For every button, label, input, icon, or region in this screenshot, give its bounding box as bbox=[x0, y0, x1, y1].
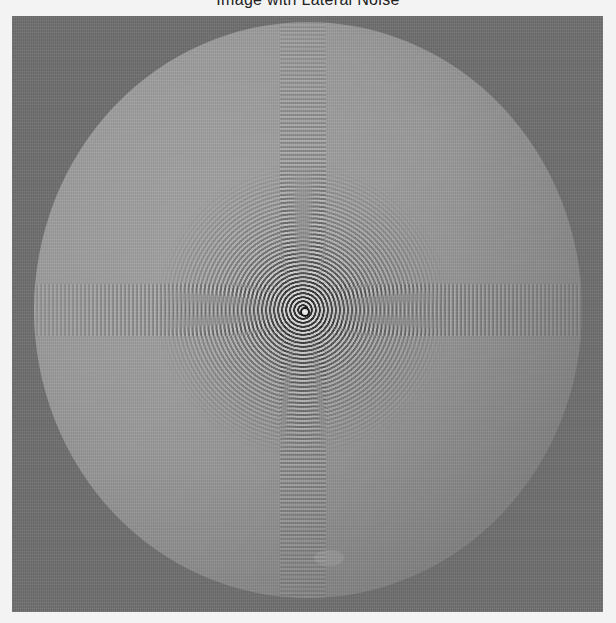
bright-disk bbox=[34, 22, 582, 598]
image-frame bbox=[12, 16, 603, 612]
figure-title: Image with Lateral Noise bbox=[0, 0, 616, 9]
disk-shading bbox=[34, 22, 582, 598]
figure: Image with Lateral Noise bbox=[0, 0, 616, 623]
